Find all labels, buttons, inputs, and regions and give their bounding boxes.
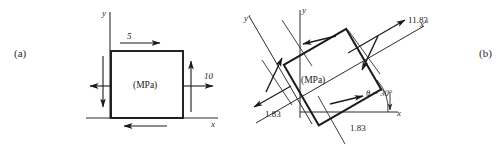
x-axis-label: x	[396, 108, 401, 118]
angle-label: θ = 30°	[366, 88, 393, 98]
shear-top-value: 5	[127, 31, 132, 41]
shear-arrow-top-face	[303, 36, 336, 44]
panel-a-unit-label: (MPa)	[133, 80, 157, 91]
x-axis-label: x	[210, 119, 215, 129]
panel-a-axes	[86, 12, 218, 118]
y-axis-label: y	[301, 5, 306, 15]
stress-element-figure: 5 10 (MPa) y x	[0, 0, 501, 146]
shear-bottom-value: 1.83	[350, 123, 366, 133]
rotated-element-group	[284, 29, 381, 126]
panel-a-caption: (a)	[14, 47, 26, 59]
stress-element-square-rotated	[284, 29, 381, 126]
panel-b-caption: (b)	[479, 47, 492, 59]
normal-right-value: 10	[204, 71, 214, 81]
normal-xprime-opp-line	[254, 86, 291, 107]
shear-left-value: 1.83	[265, 109, 281, 119]
x-prime-axis-label: x′	[419, 19, 427, 29]
y-axis-label: y	[101, 8, 106, 18]
normal-xprime-line	[348, 20, 405, 53]
y-prime-axis-line	[249, 16, 312, 124]
shear-top-face-line	[303, 36, 336, 44]
panel-a-drawing: 5 10 (MPa) y x	[0, 0, 250, 146]
panel-b-unit-label: (MPa)	[301, 75, 325, 86]
panel-a: 5 10 (MPa) y x	[0, 0, 250, 146]
panel-b: 11.83 1.83 1.83 θ = 30° (MPa) y′ y x′ x	[240, 0, 501, 146]
normal-arrow-xprime-opposite	[254, 86, 291, 107]
normal-arrow-xprime	[348, 20, 405, 53]
panel-b-reference-axes	[300, 10, 398, 118]
panel-b-drawing: 11.83 1.83 1.83 θ = 30° (MPa) y′ y x′ x	[240, 0, 501, 146]
y-prime-axis-label: y′	[243, 13, 251, 23]
